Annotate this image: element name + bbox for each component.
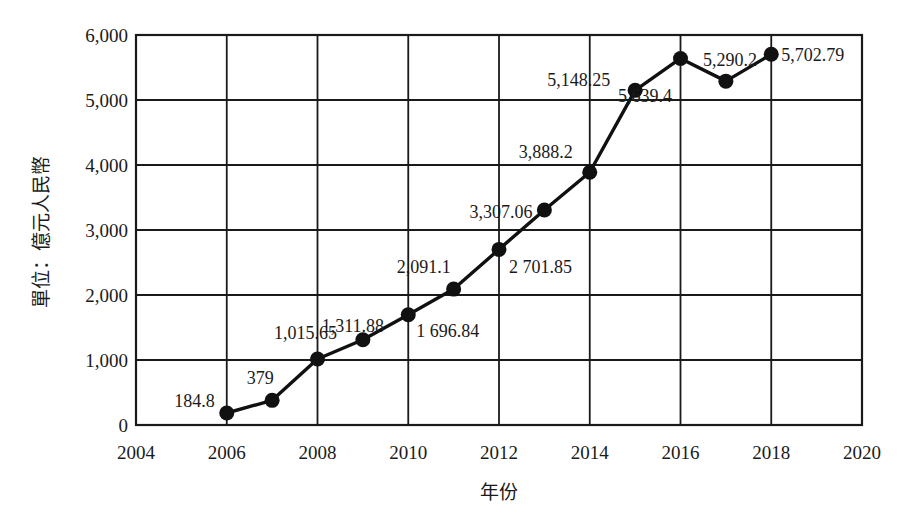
data-point-marker [219, 405, 234, 420]
x-tick-label: 2008 [299, 442, 337, 463]
line-chart: 01,0002,0003,0004,0005,0006,000 20042006… [0, 0, 911, 520]
data-point-marker [718, 74, 733, 89]
data-point-marker [265, 393, 280, 408]
data-label: 5,148.25 [547, 70, 610, 90]
data-label: 5,639.4 [618, 86, 672, 106]
data-label: 379 [247, 368, 274, 388]
data-point-marker [401, 307, 416, 322]
data-label: 1,311.88 [322, 316, 384, 336]
y-tick-label: 6,000 [85, 25, 128, 46]
y-axis-ticks: 01,0002,0003,0004,0005,0006,000 [85, 25, 128, 436]
data-label: 5,290.2 [703, 50, 757, 70]
data-point-marker [310, 351, 325, 366]
y-tick-label: 0 [119, 415, 129, 436]
data-point-marker [764, 47, 779, 62]
data-point-marker [537, 203, 552, 218]
x-axis-ticks: 200420062008201020122014201620182020 [117, 442, 881, 463]
data-label: 1 696.84 [416, 321, 479, 341]
data-label: 3,888.2 [519, 142, 573, 162]
x-tick-label: 2014 [571, 442, 610, 463]
y-tick-label: 1,000 [85, 350, 128, 371]
data-point-marker [673, 51, 688, 66]
x-tick-label: 2006 [208, 442, 246, 463]
y-tick-label: 5,000 [85, 90, 128, 111]
data-label: 184.8 [174, 391, 215, 411]
data-label: 2,091.1 [397, 257, 451, 277]
x-tick-label: 2018 [752, 442, 790, 463]
x-tick-label: 2010 [389, 442, 427, 463]
x-tick-label: 2012 [480, 442, 518, 463]
data-point-marker [446, 282, 461, 297]
data-label: 5,702.79 [781, 45, 844, 65]
data-point-marker [492, 242, 507, 257]
x-tick-label: 2016 [662, 442, 700, 463]
y-axis-title: 單位：億元人民幣 [30, 156, 52, 308]
y-tick-label: 2,000 [85, 285, 128, 306]
data-point-marker [582, 165, 597, 180]
data-label: 3,307.06 [469, 202, 532, 222]
data-label: 2 701.85 [509, 257, 572, 277]
y-tick-label: 4,000 [85, 155, 128, 176]
chart-grid [136, 35, 862, 425]
x-tick-label: 2020 [843, 442, 881, 463]
x-tick-label: 2004 [117, 442, 156, 463]
x-axis-title: 年份 [480, 481, 518, 503]
y-tick-label: 3,000 [85, 220, 128, 241]
